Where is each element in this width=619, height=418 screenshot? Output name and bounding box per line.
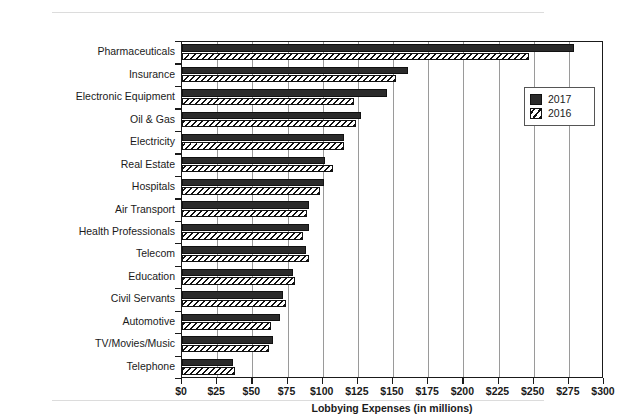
bar-2017-real-estate[interactable] (182, 157, 325, 164)
bar-row (182, 199, 602, 221)
y-tick-13 (175, 333, 181, 334)
x-axis-title: Lobbying Expenses (in millions) (181, 402, 603, 414)
bar-2016-electronic-equipment[interactable] (182, 98, 354, 105)
bar-row (182, 42, 602, 64)
y-tick-8 (175, 221, 181, 222)
bar-row (182, 64, 602, 86)
bar-2017-health-professionals[interactable] (182, 224, 309, 231)
y-axis-label-insurance: Insurance (42, 69, 175, 80)
bar-2016-insurance[interactable] (182, 75, 396, 82)
y-tick-6 (175, 176, 181, 177)
bar-row (182, 222, 602, 244)
x-tick-125 (357, 378, 358, 384)
bar-row (182, 244, 602, 266)
y-axis-category-labels: PharmaceuticalsInsuranceElectronic Equip… (40, 41, 175, 378)
bar-2016-oil-gas[interactable] (182, 120, 356, 127)
bar-2017-automotive[interactable] (182, 314, 280, 321)
bar-2016-real-estate[interactable] (182, 165, 333, 172)
y-axis-label-tv-movies-music: TV/Movies/Music (42, 338, 175, 349)
bar-row (182, 154, 602, 176)
y-tick-1 (175, 63, 181, 64)
bar-2016-hospitals[interactable] (182, 187, 320, 194)
bar-2017-telephone[interactable] (182, 359, 233, 366)
bar-2016-civil-servants[interactable] (182, 300, 286, 307)
legend-entry-2017[interactable]: 2017 (530, 93, 589, 106)
x-axis-tick-labels: $0$25$50$75$100$125$150$175$200$225$250$… (40, 385, 619, 401)
bar-2016-automotive[interactable] (182, 322, 271, 329)
y-tick-2 (175, 86, 181, 87)
bar-row (182, 357, 602, 379)
x-tick-label-200: $200 (451, 385, 474, 397)
y-tick-11 (175, 288, 181, 289)
bar-2016-health-professionals[interactable] (182, 232, 303, 239)
page-rule-top (52, 12, 544, 13)
bar-2017-pharmaceuticals[interactable] (182, 44, 574, 51)
x-tick-label-250: $250 (521, 385, 544, 397)
chart-legend[interactable]: 2017 2016 (524, 87, 595, 126)
x-tick-50 (251, 378, 252, 384)
x-tick-250 (533, 378, 534, 384)
x-tick-100 (322, 378, 323, 384)
bar-2016-electricity[interactable] (182, 142, 344, 149)
x-tick-300 (603, 378, 604, 384)
x-tick-75 (287, 378, 288, 384)
legend-label-2016: 2016 (548, 108, 571, 119)
y-axis-label-civil-servants: Civil Servants (42, 293, 175, 304)
x-tick-25 (216, 378, 217, 384)
y-tick-end (175, 378, 181, 379)
x-tick-label-25: $25 (207, 385, 225, 397)
x-tick-label-150: $150 (380, 385, 403, 397)
x-tick-label-0: $0 (175, 385, 187, 397)
bar-2017-civil-servants[interactable] (182, 291, 283, 298)
y-tick-14 (175, 356, 181, 357)
x-tick-275 (568, 378, 569, 384)
y-axis-label-telecom: Telecom (42, 248, 175, 259)
legend-entry-2016[interactable]: 2016 (530, 107, 589, 120)
solid-black-swatch (530, 94, 542, 105)
bar-row (182, 334, 602, 356)
bar-2017-electronic-equipment[interactable] (182, 89, 387, 96)
bar-2016-education[interactable] (182, 277, 295, 284)
x-tick-175 (427, 378, 428, 384)
y-tick-3 (175, 108, 181, 109)
bar-2017-education[interactable] (182, 269, 293, 276)
y-axis-label-electronic-equipment: Electronic Equipment (42, 91, 175, 102)
y-axis-label-real-estate: Real Estate (42, 159, 175, 170)
x-tick-label-50: $50 (243, 385, 261, 397)
bar-2016-pharmaceuticals[interactable] (182, 53, 529, 60)
y-axis-label-health-professionals: Health Professionals (42, 226, 175, 237)
bar-2016-air-transport[interactable] (182, 210, 307, 217)
y-tick-10 (175, 266, 181, 267)
x-tick-150 (392, 378, 393, 384)
y-tick-5 (175, 153, 181, 154)
y-axis-label-hospitals: Hospitals (42, 181, 175, 192)
hatched-swatch (530, 108, 542, 119)
y-tick-0 (175, 41, 181, 42)
y-axis-label-electricity: Electricity (42, 136, 175, 147)
bar-2017-insurance[interactable] (182, 67, 408, 74)
bar-row (182, 132, 602, 154)
y-axis-label-automotive: Automotive (42, 316, 175, 327)
bar-row (182, 177, 602, 199)
x-tick-label-275: $275 (556, 385, 579, 397)
x-tick-label-75: $75 (278, 385, 296, 397)
y-tick-12 (175, 311, 181, 312)
bar-2017-tv-movies-music[interactable] (182, 336, 273, 343)
bar-2017-hospitals[interactable] (182, 179, 324, 186)
bar-2016-telecom[interactable] (182, 255, 309, 262)
y-axis-label-education: Education (42, 271, 175, 282)
y-axis-label-pharmaceuticals: Pharmaceuticals (42, 46, 175, 57)
bar-2016-tv-movies-music[interactable] (182, 345, 269, 352)
x-tick-225 (498, 378, 499, 384)
bar-2017-electricity[interactable] (182, 134, 344, 141)
y-tick-9 (175, 243, 181, 244)
x-tick-0 (181, 378, 182, 384)
bar-row (182, 289, 602, 311)
bar-2017-air-transport[interactable] (182, 201, 309, 208)
bar-2017-oil-gas[interactable] (182, 112, 361, 119)
y-axis-label-air-transport: Air Transport (42, 204, 175, 215)
bar-2017-telecom[interactable] (182, 246, 306, 253)
bar-2016-telephone[interactable] (182, 367, 235, 374)
lobbying-expenses-bar-chart: PharmaceuticalsInsuranceElectronic Equip… (40, 16, 619, 418)
x-tick-label-175: $175 (415, 385, 438, 397)
